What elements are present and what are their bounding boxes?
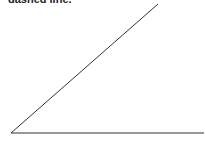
angle-diagram <box>0 0 205 141</box>
diagonal-ray <box>11 4 158 133</box>
